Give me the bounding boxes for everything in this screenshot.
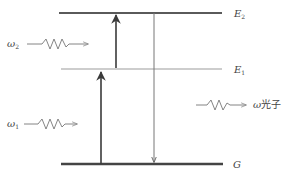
- label-e2-subscript: 2: [241, 13, 245, 20]
- label-omega2-subscript: 2: [15, 43, 19, 50]
- label-emitted-photon: ω光子: [253, 100, 281, 110]
- label-emitted-text: 光子: [261, 99, 281, 110]
- label-emitted-symbol: ω: [253, 99, 261, 110]
- label-ground: G: [233, 160, 241, 170]
- label-omega2-symbol: ω: [7, 38, 15, 49]
- label-e1-subscript: 1: [241, 69, 245, 76]
- label-ground-symbol: G: [233, 159, 241, 170]
- label-omega2: ω2: [7, 39, 19, 50]
- label-e1: E1: [234, 65, 245, 76]
- label-omega1-subscript: 1: [15, 123, 19, 130]
- energy-level-diagram: [0, 0, 295, 174]
- photon-wave-emitted: [196, 100, 246, 110]
- label-omega1: ω1: [7, 119, 19, 130]
- label-omega1-symbol: ω: [7, 118, 15, 129]
- photon-wave-omega2: [27, 39, 88, 49]
- label-e2: E2: [234, 9, 245, 20]
- photon-wave-omega1: [24, 119, 77, 129]
